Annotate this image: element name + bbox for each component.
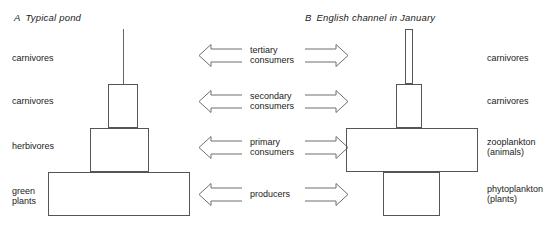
- label-b-producers-line1: phytoplankton: [487, 184, 543, 195]
- label-a-tertiary: carnivores: [12, 53, 54, 64]
- arrow-left-primary: [198, 136, 242, 160]
- trophic-label-secondary-line1: secondary: [250, 91, 292, 102]
- pyramid-a-tier-tertiary: [123, 29, 124, 84]
- arrow-left-secondary: [198, 90, 242, 114]
- pyramid-a-tier-secondary: [108, 84, 138, 128]
- label-b-tertiary: carnivores: [487, 53, 529, 64]
- trophic-label-primary-line1: primary: [250, 137, 280, 148]
- label-b-primary-line1: zooplankton: [487, 137, 536, 148]
- label-b-secondary: carnivores: [487, 96, 529, 107]
- arrow-right-primary: [305, 136, 349, 160]
- trophic-label-tertiary-line2: consumers: [250, 55, 294, 66]
- arrow-left-producers: [198, 183, 242, 207]
- panel-a-title-text: Typical pond: [26, 12, 82, 23]
- panel-a-title: ATypical pond: [14, 12, 81, 23]
- diagram-canvas: ATypical pond BEnglish channel in Januar…: [0, 0, 556, 234]
- panel-b-title-text: English channel in January: [317, 12, 436, 23]
- arrow-right-tertiary: [305, 44, 349, 68]
- pyramid-a-tier-producers: [48, 172, 190, 216]
- pyramid-b-tier-primary: [346, 128, 478, 172]
- arrow-right-producers: [305, 183, 349, 207]
- label-a-primary: herbivores: [12, 141, 54, 152]
- pyramid-a-tier-primary: [90, 128, 149, 172]
- pyramid-b-tier-tertiary: [405, 29, 413, 84]
- label-b-producers-line2: (plants): [487, 194, 517, 205]
- panel-b-title: BEnglish channel in January: [305, 12, 435, 23]
- label-a-secondary: carnivores: [12, 96, 54, 107]
- pyramid-b-tier-secondary: [396, 84, 422, 128]
- trophic-label-primary-line2: consumers: [250, 147, 294, 158]
- label-a-producers-line1: green: [12, 186, 35, 197]
- trophic-label-tertiary-line1: tertiary: [250, 45, 278, 56]
- panel-b-mark: B: [305, 12, 312, 23]
- trophic-label-producers: producers: [250, 189, 290, 200]
- panel-a-mark: A: [14, 12, 21, 23]
- label-a-producers-line2: plants: [12, 196, 36, 207]
- arrow-right-secondary: [305, 90, 349, 114]
- pyramid-b-tier-producers: [383, 172, 440, 216]
- label-b-primary-line2: (animals): [487, 147, 524, 158]
- arrow-left-tertiary: [198, 44, 242, 68]
- trophic-label-secondary-line2: consumers: [250, 101, 294, 112]
